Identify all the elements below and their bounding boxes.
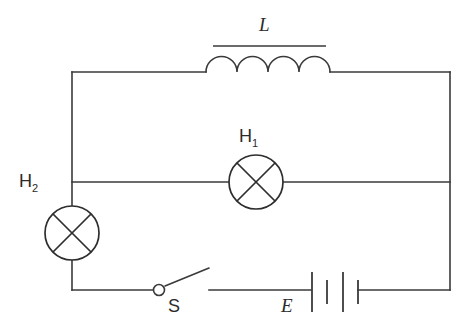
battery-label: E bbox=[281, 296, 293, 315]
lamp-h1-label-subscript: 1 bbox=[252, 137, 258, 149]
switch-symbol[interactable] bbox=[154, 268, 210, 296]
circuit-canvas bbox=[0, 0, 468, 331]
lamp-h1-label: H1 bbox=[239, 127, 258, 149]
inductor-coil-arcs bbox=[206, 56, 330, 72]
switch-label: S bbox=[168, 297, 180, 315]
lamp-h1-symbol bbox=[229, 155, 283, 209]
inductor-label: L bbox=[259, 15, 270, 34]
lamp-h2-label-subscript: 2 bbox=[32, 182, 38, 194]
circuit-diagram: L H1 H2 S E bbox=[0, 0, 468, 331]
lamp-h2-label: H2 bbox=[19, 172, 38, 194]
battery-symbol bbox=[312, 272, 358, 312]
switch-pivot-contact[interactable] bbox=[154, 285, 165, 296]
switch-blade[interactable] bbox=[165, 268, 209, 286]
lamp-h2-symbol bbox=[45, 206, 99, 260]
inductor-symbol bbox=[206, 46, 330, 72]
lamp-h1-label-letter: H bbox=[239, 126, 252, 146]
lamp-h2-label-letter: H bbox=[19, 171, 32, 191]
